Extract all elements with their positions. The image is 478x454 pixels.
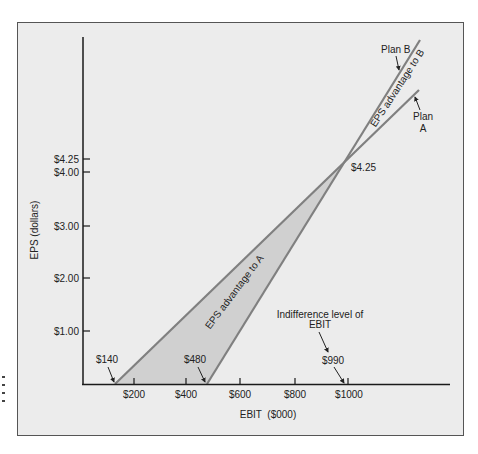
x-axis-title: EBIT ($000) xyxy=(240,409,297,420)
y-axis-title: EPS (dollars) xyxy=(29,201,40,260)
arrow-icon xyxy=(319,332,328,352)
y-tick-label: $4.25 xyxy=(54,154,79,165)
x-tick-label: $800 xyxy=(284,389,307,400)
y-tick-label: $3.00 xyxy=(54,221,79,232)
y-ticks xyxy=(83,159,90,331)
y-tick-label: $2.00 xyxy=(54,273,79,284)
y-tick-label: $4.00 xyxy=(54,167,79,178)
x-tick-label: $400 xyxy=(175,389,198,400)
arrow-icon xyxy=(415,97,420,110)
crossover-label: $4.25 xyxy=(351,162,376,173)
indifference-label-line2: EBIT xyxy=(309,319,331,330)
plan-a-label-line1: Plan xyxy=(413,111,433,122)
intercept-b-label: $480 xyxy=(184,354,207,365)
x-tick-label: $200 xyxy=(123,389,146,400)
plan-a-line xyxy=(115,90,419,384)
arrow-icon xyxy=(334,367,344,383)
x-tick-label: $600 xyxy=(229,389,252,400)
x-tick-label: $1000 xyxy=(335,389,363,400)
plan-a-label-line2: A xyxy=(420,123,427,134)
eps-ebit-chart: $1.00 $2.00 $3.00 $4.00 $4.25 $200 $400 … xyxy=(0,0,478,454)
indifference-value-label: $990 xyxy=(322,355,345,366)
intercept-a-label: $140 xyxy=(96,354,119,365)
plan-b-label: Plan B xyxy=(381,44,411,55)
y-tick-label: $1.00 xyxy=(54,326,79,337)
arrow-icon xyxy=(108,367,114,382)
arrow-icon xyxy=(396,56,399,70)
